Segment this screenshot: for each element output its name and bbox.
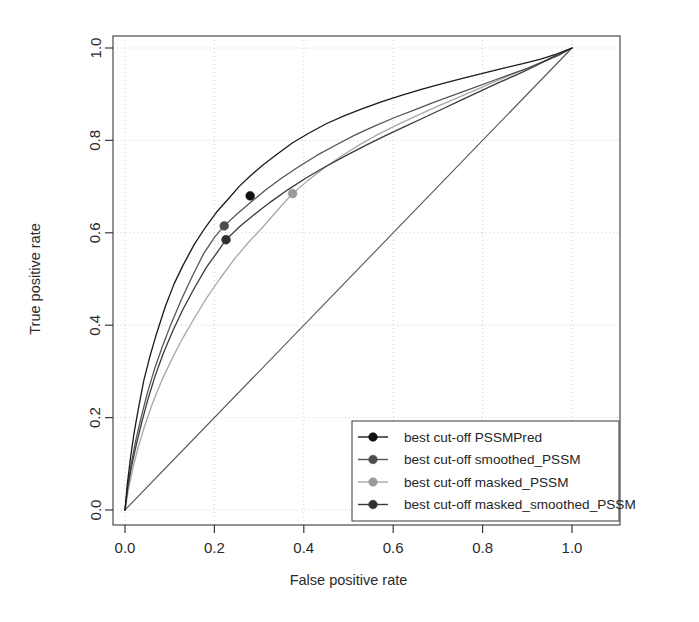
legend-marker-PSSMPred [369, 433, 378, 442]
x-tick-label-5: 1.0 [562, 539, 583, 556]
legend-marker-masked_smoothed_PSSM [369, 500, 378, 509]
cutoff-markers [220, 189, 297, 244]
legend-label-PSSMPred: best cut-off PSSMPred [404, 430, 542, 445]
cutoff-marker-smoothed_PSSM [220, 221, 229, 230]
y-axis-title: True positive rate [27, 223, 43, 334]
cutoff-marker-masked_smoothed_PSSM [222, 235, 231, 244]
y-tick-label-5: 1.0 [87, 38, 104, 59]
x-tick-label-4: 0.8 [472, 539, 493, 556]
cutoff-marker-PSSMPred [246, 191, 255, 200]
legend-marker-smoothed_PSSM [369, 455, 378, 464]
x-axis-title: False positive rate [290, 572, 408, 588]
x-tick-label-3: 0.6 [383, 539, 404, 556]
cutoff-marker-masked_PSSM [288, 189, 297, 198]
legend: best cut-off PSSMPredbest cut-off smooth… [352, 421, 636, 521]
legend-marker-masked_PSSM [369, 478, 378, 487]
y-tick-label-4: 0.8 [87, 130, 104, 151]
legend-label-smoothed_PSSM: best cut-off smoothed_PSSM [404, 452, 581, 467]
roc-curve-figure: 0.00.20.40.60.81.00.00.20.40.60.81.0Fals… [0, 0, 699, 622]
x-tick-label-1: 0.2 [204, 539, 225, 556]
x-tick-label-0: 0.0 [115, 539, 136, 556]
chart-canvas: 0.00.20.40.60.81.00.00.20.40.60.81.0Fals… [0, 0, 699, 622]
x-tick-label-2: 0.4 [293, 539, 314, 556]
legend-label-masked_PSSM: best cut-off masked_PSSM [404, 475, 568, 490]
y-tick-label-1: 0.2 [87, 407, 104, 428]
y-tick-label-0: 0.0 [87, 500, 104, 521]
y-tick-label-3: 0.6 [87, 222, 104, 243]
y-tick-label-2: 0.4 [87, 315, 104, 336]
legend-label-masked_smoothed_PSSM: best cut-off masked_smoothed_PSSM [404, 497, 636, 512]
